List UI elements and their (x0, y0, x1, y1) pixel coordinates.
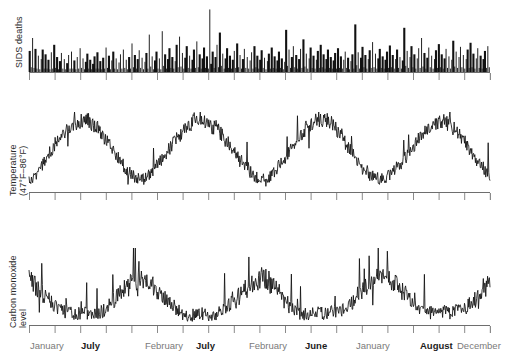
x-axis-label-december-8: December (457, 340, 501, 351)
x-axis-label-july-3: July (196, 340, 215, 351)
x-axis-label-january-0: January (30, 340, 64, 351)
x-axis-label-february-2: February (145, 340, 183, 351)
x-axis-label-june-5: June (305, 340, 327, 351)
x-axis-label-january-6: January (356, 340, 390, 351)
x-axis-label-august-7: August (420, 340, 453, 351)
sids-temperature-co-figure: SIDS deaths Temperature (47°F–86°F) Carb… (0, 0, 508, 360)
panel-sids-deaths (30, 9, 490, 72)
plot-canvas (0, 0, 508, 360)
x-axis-label-february-4: February (249, 340, 287, 351)
carbon-monoxide-trace (29, 248, 490, 321)
x-axis-label-july-1: July (81, 340, 100, 351)
temperature-trace (29, 112, 490, 186)
